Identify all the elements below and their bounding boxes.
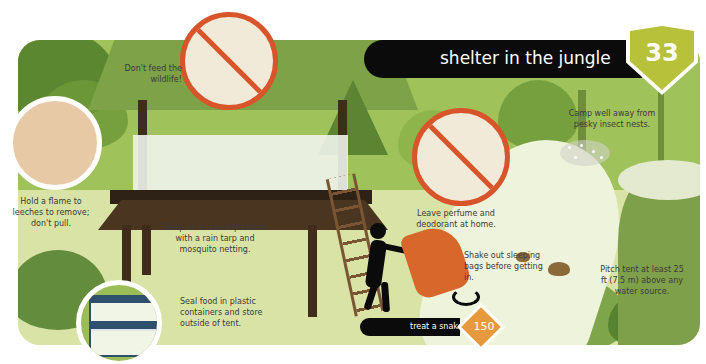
- tip-sleeping-bags: Shake out sleeping bags before getting i…: [464, 250, 550, 283]
- tip-food: Seal food in plastic containers and stor…: [180, 296, 272, 329]
- rock: [548, 262, 570, 276]
- tip-insects: Camp well away from pesky insect nests.: [564, 108, 660, 130]
- tip-water: Pitch tent at least 25 ft (7.5 m) above …: [598, 264, 686, 297]
- container: [89, 321, 162, 357]
- food-containers-icon: [76, 280, 162, 364]
- tip-leeches: Hold a flame to leeches to remove; don't…: [6, 196, 96, 229]
- tip-wildlife: Don't feed the wildlife!: [118, 63, 182, 85]
- no-perfume-icon: [412, 108, 510, 206]
- page-number: 33: [630, 38, 694, 68]
- no-feeding-monkey-icon: [180, 12, 278, 110]
- platform-leg: [308, 225, 317, 317]
- person-head: [370, 223, 386, 239]
- page-title: shelter in the jungle: [440, 46, 611, 70]
- platform-leg: [142, 225, 151, 275]
- tip-platform: Sleep on a raised platform with a rain t…: [160, 222, 270, 255]
- leech-flame-icon: [8, 96, 102, 190]
- snake-icon: [452, 288, 480, 306]
- insect-nest-icon: [560, 140, 610, 166]
- tip-perfume: Leave perfume and deodorant at home.: [410, 208, 502, 230]
- cross-reference-page[interactable]: 150: [464, 320, 504, 334]
